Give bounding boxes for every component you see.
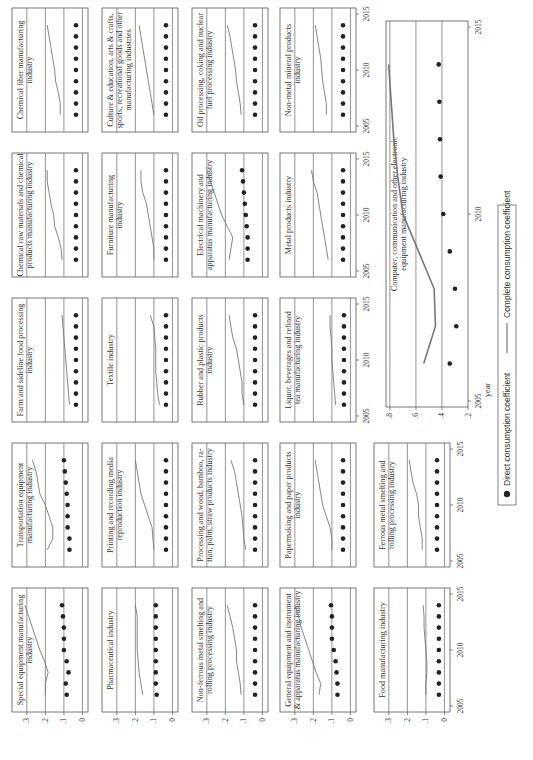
small-multiples-chart: Special equipment manufacturingindustry.… — [0, 0, 533, 760]
x-tick-label: 2005 — [362, 408, 371, 423]
direct-coefficient-dot — [253, 34, 258, 39]
direct-coefficient-dot — [253, 90, 258, 95]
panel: Electrical machinery andapparatus manufa… — [192, 153, 268, 277]
panel-title: Computer, communication and other electr… — [390, 136, 399, 291]
direct-coefficient-dot — [64, 659, 69, 664]
direct-coefficient-dot — [62, 625, 67, 630]
panel: Liquor, beverages and refinedtea manufac… — [280, 298, 356, 422]
direct-coefficient-dot — [164, 257, 169, 262]
x-tick-label: 2015 — [456, 441, 465, 456]
direct-coefficient-dot — [74, 202, 79, 207]
direct-coefficient-dot — [447, 361, 452, 366]
direct-coefficient-dot — [253, 335, 258, 340]
panel-title: Pharmaceutical industry — [106, 609, 115, 689]
direct-coefficient-dot — [253, 458, 258, 463]
direct-coefficient-dot — [164, 190, 169, 195]
direct-coefficient-dot — [65, 514, 70, 519]
panel: Special equipment manufacturingindustry — [12, 588, 88, 712]
direct-coefficient-dot — [153, 625, 158, 630]
direct-coefficient-dot — [253, 525, 258, 530]
y-tick-label: .1 — [59, 718, 68, 724]
direct-coefficient-dot — [164, 548, 169, 553]
panel-title: Non-ferrous metal smelting and — [196, 598, 205, 702]
direct-coefficient-dot — [341, 503, 346, 508]
direct-coefficient-dot — [164, 179, 169, 184]
y-tick-label: 0 — [78, 718, 87, 722]
direct-coefficient-dot — [65, 525, 70, 530]
panel: Printing and recording mediareproduction… — [102, 443, 178, 567]
panel-title: Oil processing, coking and nuclear — [196, 13, 205, 127]
y-tick-label: .8 — [385, 413, 394, 419]
direct-coefficient-dot — [342, 324, 347, 329]
y-tick-label: .3 — [290, 718, 299, 724]
x-tick-label: 2010 — [362, 352, 371, 367]
direct-coefficient-dot — [164, 57, 169, 62]
panel-title: sports, recreational goods and other — [115, 11, 124, 128]
panel-title: General equipment and instrument — [284, 593, 293, 707]
direct-coefficient-dot — [64, 693, 69, 698]
panel: Farm and sideline food processingindustr… — [12, 298, 88, 422]
panel: Non-ferrous metal smelting androlling pr… — [192, 588, 268, 712]
direct-coefficient-dot — [164, 224, 169, 229]
direct-coefficient-dot — [253, 659, 258, 664]
direct-coefficient-dot — [164, 380, 169, 385]
panel-title: industry — [25, 346, 34, 374]
direct-coefficient-dot — [153, 603, 158, 608]
panel: Computer, communication and other electr… — [386, 21, 468, 407]
direct-coefficient-dot — [74, 257, 79, 262]
direct-coefficient-dot — [330, 637, 335, 642]
direct-coefficient-dot — [335, 693, 340, 698]
panel: Culture & education, arts & crafts,sport… — [102, 8, 178, 132]
direct-coefficient-dot — [253, 346, 258, 351]
direct-coefficient-dot — [341, 213, 346, 218]
x-tick-label: 2015 — [456, 586, 465, 601]
direct-coefficient-dot — [74, 213, 79, 218]
direct-coefficient-dot — [437, 670, 442, 675]
direct-coefficient-dot — [164, 346, 169, 351]
direct-coefficient-dot — [164, 90, 169, 95]
direct-coefficient-dot — [334, 670, 339, 675]
panel-title: manufacturing industry — [25, 466, 34, 544]
x-tick-label: 2015 — [362, 296, 371, 311]
direct-coefficient-dot — [153, 670, 158, 675]
y-tick-label: .3 — [384, 718, 393, 724]
panel: Pharmaceutical industry — [102, 588, 178, 712]
panel-title: Electrical machinery and — [196, 174, 205, 256]
direct-coefficient-dot — [242, 190, 247, 195]
direct-coefficient-dot — [164, 235, 169, 240]
direct-coefficient-dot — [74, 335, 79, 340]
direct-coefficient-dot — [253, 670, 258, 675]
y-tick-label: 0 — [346, 718, 355, 722]
direct-coefficient-dot — [74, 34, 79, 39]
y-tick-label: .2 — [309, 718, 318, 724]
direct-coefficient-dot — [253, 693, 258, 698]
direct-coefficient-dot — [253, 402, 258, 407]
direct-coefficient-dot — [253, 391, 258, 396]
panel-title: fuel processing industry — [205, 30, 214, 110]
direct-coefficient-dot — [74, 168, 79, 173]
direct-coefficient-dot — [153, 681, 158, 686]
direct-coefficient-dot — [341, 23, 346, 28]
direct-coefficient-dot — [74, 113, 79, 118]
direct-coefficient-dot — [62, 458, 67, 463]
y-tick-label: .3 — [202, 718, 211, 724]
direct-coefficient-dot — [63, 480, 68, 485]
direct-coefficient-dot — [435, 491, 440, 496]
direct-coefficient-dot — [341, 469, 346, 474]
direct-coefficient-dot — [253, 536, 258, 541]
y-tick-label: 0 — [258, 718, 267, 722]
y-tick-label: .4 — [437, 413, 446, 419]
direct-coefficient-dot — [454, 324, 459, 329]
direct-coefficient-dot — [64, 491, 69, 496]
direct-coefficient-dot — [437, 659, 442, 664]
direct-coefficient-dot — [441, 212, 446, 217]
direct-coefficient-dot — [164, 101, 169, 106]
x-tick-label: 2015 — [362, 6, 371, 21]
panel-title: products manufacturing industry — [25, 161, 34, 269]
panel: Furniture manufacturingindustry — [102, 153, 178, 277]
direct-coefficient-dot — [243, 213, 248, 218]
direct-coefficient-dot — [342, 346, 347, 351]
direct-coefficient-dot — [438, 174, 443, 179]
direct-coefficient-dot — [437, 648, 442, 653]
panel: Chemical raw materials and chemicalprodu… — [12, 153, 88, 277]
